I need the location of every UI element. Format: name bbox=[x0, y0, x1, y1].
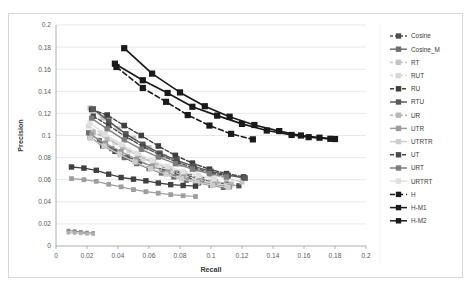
legend-marker-swatch bbox=[396, 192, 401, 197]
data-point-marker bbox=[91, 232, 95, 236]
x-tick-label: 0.2 bbox=[361, 252, 370, 259]
legend-item-h[interactable]: H bbox=[390, 191, 416, 198]
data-point-marker bbox=[90, 106, 96, 112]
x-tick-label: 0.04 bbox=[112, 252, 125, 259]
data-point-marker bbox=[121, 45, 127, 51]
data-point-marker bbox=[79, 231, 83, 235]
data-point-marker bbox=[94, 179, 99, 184]
legend-item-cosine[interactable]: Cosine bbox=[390, 32, 431, 39]
data-point-marker bbox=[242, 175, 248, 181]
data-point-marker bbox=[148, 166, 153, 171]
y-tick-label: 0.16 bbox=[38, 66, 51, 73]
data-point-marker bbox=[106, 182, 111, 187]
legend-item-h-m2[interactable]: H-M2 bbox=[390, 217, 427, 224]
data-point-marker bbox=[134, 150, 139, 155]
x-tick-label: 0 bbox=[54, 252, 58, 259]
data-point-marker bbox=[140, 85, 146, 91]
data-point-marker bbox=[156, 154, 161, 159]
data-point-marker bbox=[104, 126, 109, 131]
data-point-marker bbox=[168, 192, 173, 197]
legend-item-utrtr[interactable]: UTRTR bbox=[390, 138, 433, 145]
data-point-marker bbox=[156, 143, 162, 149]
data-point-marker bbox=[276, 128, 282, 134]
data-point-marker bbox=[118, 175, 123, 180]
legend-marker-swatch bbox=[396, 218, 401, 223]
legend-marker-swatch bbox=[396, 179, 401, 184]
legend-item-urt[interactable]: URT bbox=[390, 164, 424, 171]
data-point-marker bbox=[193, 183, 198, 188]
legend-marker-swatch bbox=[396, 126, 401, 131]
legend-item-urtrt[interactable]: URTRT bbox=[390, 178, 433, 185]
y-axis-title: Precision bbox=[16, 119, 25, 151]
y-tick-label: 0.04 bbox=[38, 198, 51, 205]
legend-item-ut[interactable]: UT bbox=[390, 151, 420, 158]
data-point-marker bbox=[73, 231, 77, 235]
data-point-marker bbox=[173, 161, 178, 166]
legend-item-rtu[interactable]: RTU bbox=[390, 98, 424, 105]
y-tick-label: 0.18 bbox=[38, 44, 51, 51]
legend-marker-swatch bbox=[396, 86, 401, 91]
legend-item-utr[interactable]: UTR bbox=[390, 125, 425, 132]
legend-label: H bbox=[411, 191, 416, 198]
data-point-marker bbox=[168, 182, 173, 187]
data-point-marker bbox=[87, 121, 92, 126]
x-tick-label: 0.16 bbox=[298, 252, 311, 259]
data-point-marker bbox=[112, 61, 118, 67]
data-point-marker bbox=[85, 232, 89, 236]
legend-label: UTR bbox=[411, 125, 425, 132]
data-point-marker bbox=[250, 136, 256, 142]
legend-label: URT bbox=[411, 164, 424, 171]
x-tick-label: 0.1 bbox=[206, 252, 215, 259]
x-tick-label: 0.14 bbox=[267, 252, 280, 259]
y-tick-label: 0.02 bbox=[38, 220, 51, 227]
y-tick-label: 0.12 bbox=[38, 110, 51, 117]
legend-marker-swatch bbox=[396, 33, 401, 38]
data-point-marker bbox=[103, 132, 108, 137]
data-point-marker bbox=[67, 231, 71, 235]
data-point-marker bbox=[332, 136, 338, 142]
y-tick-label: 0.2 bbox=[42, 21, 51, 28]
data-point-marker bbox=[94, 168, 99, 173]
legend-item-rut[interactable]: RUT bbox=[390, 72, 424, 79]
data-point-marker bbox=[224, 174, 229, 179]
data-point-marker bbox=[165, 90, 171, 96]
legend-item-ur[interactable]: UR bbox=[390, 112, 421, 119]
data-point-marker bbox=[149, 158, 154, 163]
y-tick-label: 0.06 bbox=[38, 176, 51, 183]
data-point-marker bbox=[227, 114, 233, 120]
legend-label: Cosine_M bbox=[411, 46, 440, 54]
data-point-marker bbox=[149, 71, 155, 77]
data-point-marker bbox=[228, 131, 234, 137]
legend-item-rt[interactable]: RT bbox=[390, 59, 419, 66]
data-point-marker bbox=[89, 116, 94, 121]
data-point-marker bbox=[185, 112, 191, 118]
precision-recall-chart: 00.020.040.060.080.10.120.140.160.180.20… bbox=[9, 14, 462, 277]
legend-item-h-m1[interactable]: H-M1 bbox=[390, 204, 427, 211]
data-point-marker bbox=[177, 89, 183, 95]
data-point-marker bbox=[189, 104, 195, 110]
data-point-marker bbox=[298, 132, 304, 138]
legend-label: UTRTR bbox=[411, 138, 433, 145]
data-point-marker bbox=[225, 185, 230, 190]
x-tick-label: 0.06 bbox=[143, 252, 156, 259]
legend-label: RTU bbox=[411, 98, 424, 105]
data-point-marker bbox=[101, 143, 106, 148]
legend-item-cosine-m[interactable]: Cosine_M bbox=[390, 46, 440, 54]
data-point-marker bbox=[132, 159, 137, 164]
data-point-marker bbox=[121, 123, 127, 129]
legend-item-ru[interactable]: RU bbox=[390, 85, 421, 92]
x-axis-title: Recall bbox=[200, 265, 221, 274]
legend-label: URTRT bbox=[411, 178, 433, 185]
data-point-marker bbox=[69, 176, 74, 181]
series-h-m2 bbox=[121, 45, 338, 142]
data-point-marker bbox=[251, 122, 257, 128]
data-point-marker bbox=[211, 176, 216, 181]
legend-marker-swatch bbox=[396, 60, 401, 65]
data-point-marker bbox=[202, 103, 208, 109]
data-point-marker bbox=[156, 180, 161, 185]
legend-label: UR bbox=[411, 112, 421, 119]
data-point-marker bbox=[165, 164, 170, 169]
series-cosine bbox=[88, 135, 242, 189]
legend-label: RUT bbox=[411, 72, 424, 79]
data-point-marker bbox=[206, 122, 212, 128]
